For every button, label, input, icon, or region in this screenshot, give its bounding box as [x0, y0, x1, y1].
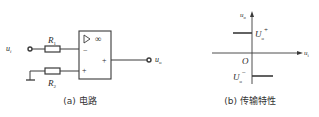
input-terminal — [28, 47, 32, 51]
r1-label: R1 — [47, 35, 57, 46]
input-label: ui — [6, 44, 12, 54]
output-label: uo — [155, 55, 162, 65]
resistor-r1 — [45, 46, 60, 52]
upper-level-label: Uo+ — [255, 26, 268, 41]
circuit-caption: (a) 电路 — [63, 95, 96, 106]
origin-label: O — [242, 56, 249, 66]
y-axis-label: uo — [240, 11, 247, 20]
opamp-gain-symbol: ∞ — [95, 34, 101, 44]
r2-label: R2 — [47, 78, 57, 89]
transfer-characteristic-plot — [212, 11, 303, 84]
y-axis-arrow-icon — [250, 11, 254, 17]
output-sign: + — [102, 56, 107, 65]
x-axis-label: ui — [304, 49, 310, 58]
transfer-caption: (b) 传输特性 — [224, 95, 276, 106]
x-axis-arrow-icon — [297, 51, 303, 55]
resistor-r2 — [45, 68, 60, 74]
circuit-diagram — [26, 31, 151, 80]
output-terminal — [147, 58, 151, 62]
noninverting-input-sign: + — [82, 66, 87, 75]
transfer-labels: uo ui O Uo+ Uo− (b) 传输特性 — [224, 11, 309, 106]
circuit-labels: ui R1 R2 ∞ − + + uo (a) 电路 — [6, 34, 162, 106]
lower-level-label: Uo− — [233, 69, 246, 84]
opamp-triangle-icon — [84, 35, 90, 43]
figure: ui R1 R2 ∞ − + + uo (a) 电路 uo ui O Uo+ U… — [0, 0, 319, 117]
inverting-input-sign: − — [83, 46, 88, 55]
